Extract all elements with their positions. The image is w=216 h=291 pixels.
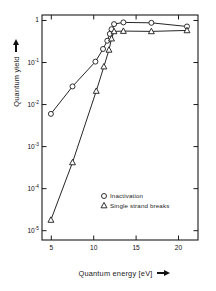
right-arrow-icon: [157, 270, 170, 276]
y-tick-label: 10-2: [27, 100, 39, 108]
legend-label: Single strand breaks: [110, 202, 169, 209]
y-axis-title: Quantum yield: [9, 13, 23, 133]
y-tick-label: 1: [35, 16, 39, 23]
data-point-triangle: [106, 47, 112, 52]
x-tick-label: 10: [84, 244, 104, 251]
legend-markers: [101, 194, 107, 208]
data-point-circle: [93, 59, 98, 64]
data-point-triangle: [93, 88, 99, 93]
data-point-triangle: [70, 159, 76, 164]
data-point-circle: [149, 20, 154, 25]
legend-label: Inactivation: [110, 192, 143, 199]
data-point-circle: [112, 22, 117, 27]
data-point-circle: [101, 46, 106, 51]
quantum-yield-chart: 110-110-210-310-410-5 5101520 Quantum yi…: [0, 0, 216, 291]
data-point-circle: [121, 20, 126, 25]
y-axis-title-text: Quantum yield: [12, 56, 21, 106]
y-tick-label: 10-1: [27, 58, 39, 66]
x-axis-title-text: Quantum energy [eV]: [78, 269, 152, 278]
legend-marker-circle: [102, 194, 107, 199]
data-point-triangle: [101, 63, 107, 68]
data-point-circle: [48, 111, 53, 116]
x-tick-label: 20: [169, 244, 189, 251]
y-tick-label: 10-3: [27, 142, 39, 150]
x-tick-label: 5: [41, 244, 61, 251]
series-line: [51, 22, 187, 113]
legend-marker-triangle: [101, 202, 107, 207]
x-tick-label: 15: [126, 244, 146, 251]
up-arrow-icon: [13, 39, 19, 52]
data-point-circle: [70, 84, 75, 89]
data-point-triangle: [48, 217, 54, 222]
x-axis-title: Quantum energy [eV]: [44, 266, 204, 280]
y-tick-label: 10-4: [27, 184, 39, 192]
series-circle: [48, 20, 189, 116]
y-tick-label: 10-5: [27, 226, 39, 234]
